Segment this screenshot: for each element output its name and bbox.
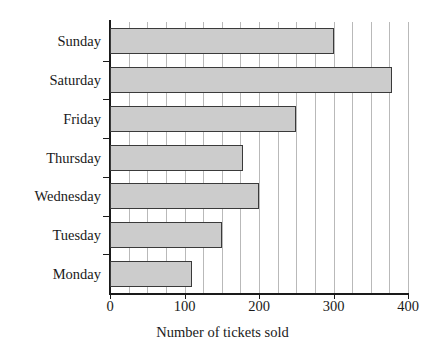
bar-wednesday (110, 183, 259, 209)
y-tick-label-monday: Monday (0, 267, 101, 282)
bar-tuesday (110, 222, 222, 248)
bar-friday (110, 106, 296, 132)
gridline (334, 22, 335, 293)
gridline (278, 22, 279, 293)
gridline (259, 22, 260, 293)
y-axis-tick (103, 61, 110, 62)
x-tick-label-400: 400 (388, 299, 428, 314)
y-tick-label-friday: Friday (0, 112, 101, 127)
y-axis-tick (103, 177, 110, 178)
y-axis-tick (103, 99, 110, 100)
x-tick-label-300: 300 (314, 299, 354, 314)
x-tick-label-200: 200 (239, 299, 279, 314)
y-tick-label-sunday: Sunday (0, 34, 101, 49)
bar-chart: Number of tickets sold MondayTuesdayWedn… (0, 0, 445, 355)
gridline (389, 22, 390, 293)
gridline (408, 22, 409, 293)
y-axis-tick (103, 254, 110, 255)
bar-sunday (110, 28, 334, 54)
y-tick-label-tuesday: Tuesday (0, 228, 101, 243)
bar-thursday (110, 145, 243, 171)
x-tick-label-100: 100 (165, 299, 205, 314)
y-tick-label-wednesday: Wednesday (0, 189, 101, 204)
x-tick-label-0: 0 (90, 299, 130, 314)
bar-monday (110, 261, 192, 287)
y-axis-tick (103, 138, 110, 139)
bar-saturday (110, 67, 392, 93)
x-axis-title: Number of tickets sold (0, 325, 445, 340)
y-axis-tick (103, 216, 110, 217)
y-tick-label-saturday: Saturday (0, 73, 101, 88)
gridline (315, 22, 316, 293)
y-tick-label-thursday: Thursday (0, 151, 101, 166)
gridline (296, 22, 297, 293)
gridline (371, 22, 372, 293)
gridline (352, 22, 353, 293)
